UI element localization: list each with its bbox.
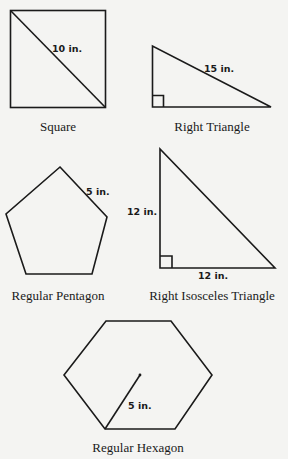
right-angle-marker-icon <box>160 256 172 268</box>
hexagon-radius-label: 5 in. <box>128 400 152 411</box>
hexagon-outline <box>64 321 212 429</box>
isosceles-vertical-leg-label: 12 in. <box>127 206 157 217</box>
regular-hexagon-figure: 5 in. Regular Hexagon <box>64 321 212 455</box>
isosceles-horizontal-leg-label: 12 in. <box>198 270 228 281</box>
square-caption: Square <box>40 119 76 134</box>
pentagon-caption: Regular Pentagon <box>12 288 105 303</box>
isosceles-caption: Right Isosceles Triangle <box>149 288 275 303</box>
square-diagonal <box>11 11 106 108</box>
right-isosceles-triangle-figure: 12 in. 12 in. Right Isosceles Triangle <box>127 149 275 303</box>
right-triangle-figure: 15 in. Right Triangle <box>153 46 272 134</box>
right-triangle-outline <box>153 46 272 107</box>
pentagon-outline <box>6 167 107 274</box>
right-triangle-hypotenuse-label: 15 in. <box>204 63 234 74</box>
square-diagonal-label: 10 in. <box>52 43 82 54</box>
isosceles-triangle-outline <box>160 149 275 268</box>
right-angle-marker-icon <box>153 96 164 108</box>
hexagon-caption: Regular Hexagon <box>92 440 184 455</box>
geometry-figures: 10 in. Square 15 in. Right Triangle 5 in… <box>0 0 288 459</box>
right-triangle-caption: Right Triangle <box>174 119 250 134</box>
hexagon-center-point <box>139 374 142 377</box>
pentagon-side-label: 5 in. <box>86 186 110 197</box>
regular-pentagon-figure: 5 in. Regular Pentagon <box>6 167 110 303</box>
square-figure: 10 in. Square <box>11 11 106 135</box>
